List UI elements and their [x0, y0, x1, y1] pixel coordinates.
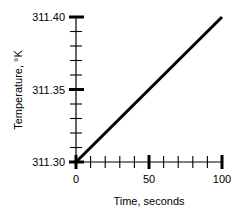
chart-container: 311.40 311.35 311.30 0 50 100 Time, seco…	[0, 0, 238, 215]
y-tick-label-bottom: 311.30	[32, 156, 65, 168]
x-tick-label-50: 50	[143, 173, 155, 185]
x-axis-title: Time, seconds	[113, 195, 185, 207]
y-tick-label-mid: 311.35	[32, 84, 65, 96]
x-tick-label-0: 0	[73, 173, 79, 185]
y-axis-title: Temperature, °K	[12, 50, 24, 130]
chart-background	[0, 0, 238, 215]
x-tick-label-100: 100	[213, 173, 231, 185]
temperature-vs-time-line-chart: 311.40 311.35 311.30 0 50 100 Time, seco…	[0, 0, 238, 215]
y-tick-label-top: 311.40	[32, 11, 65, 23]
